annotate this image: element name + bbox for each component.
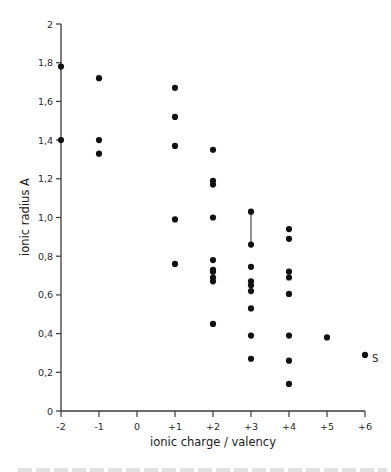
data-point xyxy=(210,278,216,284)
data-point xyxy=(248,332,254,338)
x-tick-label: +3 xyxy=(244,421,258,432)
data-point xyxy=(248,241,254,247)
data-point xyxy=(248,282,254,288)
data-point xyxy=(96,75,102,81)
data-point xyxy=(172,216,178,222)
data-point xyxy=(210,321,216,327)
data-point xyxy=(286,381,292,387)
y-tick-label: 0,8 xyxy=(38,251,53,262)
point-label: S xyxy=(372,353,378,364)
y-axis-title: ionic radius A xyxy=(18,178,32,256)
y-tick-label: 1,4 xyxy=(38,135,53,146)
data-point xyxy=(286,269,292,275)
data-point xyxy=(172,114,178,120)
x-axis: -2-10+1+2+3+4+5+6 xyxy=(56,411,372,432)
y-tick-label: 1,8 xyxy=(38,57,53,68)
data-point xyxy=(172,261,178,267)
data-point xyxy=(96,151,102,157)
data-point xyxy=(248,356,254,362)
x-tick-label: +5 xyxy=(320,421,334,432)
caption-text-fragment xyxy=(18,468,387,472)
data-point xyxy=(210,147,216,153)
x-tick-label: +6 xyxy=(358,421,372,432)
data-points xyxy=(58,63,368,387)
data-point xyxy=(172,85,178,91)
x-tick-label: +4 xyxy=(282,421,296,432)
data-point xyxy=(362,352,368,358)
data-point xyxy=(58,63,64,69)
data-point xyxy=(324,334,330,340)
data-point xyxy=(58,137,64,143)
x-tick-label: -2 xyxy=(56,421,65,432)
data-point xyxy=(286,358,292,364)
point-annotations: S xyxy=(372,353,378,364)
y-tick-label: 1,0 xyxy=(38,212,53,223)
data-point xyxy=(248,305,254,311)
figure-caption-cropped xyxy=(0,466,391,472)
data-point xyxy=(172,143,178,149)
y-axis: 00,20,40,60,81,01,21,41,61,82 xyxy=(38,19,61,417)
x-tick-label: +2 xyxy=(206,421,220,432)
scatter-chart: 00,20,40,60,81,01,21,41,61,82 -2-10+1+2+… xyxy=(0,0,391,472)
x-tick-label: +1 xyxy=(168,421,182,432)
x-axis-title: ionic charge / valency xyxy=(150,435,276,449)
y-tick-label: 0,4 xyxy=(38,328,53,339)
x-tick-label: 0 xyxy=(134,421,140,432)
x-tick-label: -1 xyxy=(94,421,103,432)
data-point xyxy=(210,214,216,220)
data-point xyxy=(96,137,102,143)
data-point xyxy=(210,257,216,263)
data-point xyxy=(286,236,292,242)
y-tick-label: 0 xyxy=(47,406,53,417)
y-tick-label: 2 xyxy=(47,19,53,30)
y-tick-label: 1,6 xyxy=(38,96,53,107)
data-point xyxy=(286,274,292,280)
data-point xyxy=(248,288,254,294)
data-point xyxy=(210,269,216,275)
y-tick-label: 0,6 xyxy=(38,289,53,300)
data-point xyxy=(248,209,254,215)
y-tick-label: 0,2 xyxy=(38,367,53,378)
data-point xyxy=(210,182,216,188)
y-tick-label: 1,2 xyxy=(38,173,53,184)
data-point xyxy=(286,226,292,232)
data-point xyxy=(248,264,254,270)
data-point xyxy=(286,332,292,338)
data-point xyxy=(286,291,292,297)
